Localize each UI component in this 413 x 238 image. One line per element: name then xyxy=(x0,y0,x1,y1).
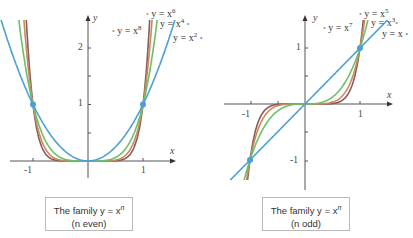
legend-x1: y = x • xyxy=(382,29,408,39)
left-x-arrow-icon xyxy=(170,159,176,164)
left-y-arrow-icon xyxy=(86,15,91,21)
left-ytick-1: 1 xyxy=(78,99,83,109)
caption-even: The family y = xn (n even) xyxy=(45,197,133,231)
left-ytick-2: 2 xyxy=(78,43,83,53)
right-y-arrow-icon xyxy=(303,15,308,21)
right-x-arrow-icon xyxy=(387,102,393,107)
left-x-axis-label: x xyxy=(170,146,174,156)
left-y-axis-label: y xyxy=(93,13,97,23)
right-xtick-pos1: 1 xyxy=(358,110,363,120)
left-xtick-pos1: 1 xyxy=(141,166,146,176)
legend-x4: y = x4 • xyxy=(160,18,189,29)
legend-x7: • y = x7 xyxy=(323,22,352,33)
left-xtick-neg1: -1 xyxy=(24,166,32,176)
left-point-neg1 xyxy=(30,102,36,108)
right-point-pos1 xyxy=(357,45,363,51)
caption-odd: The family y = xn (n odd) xyxy=(262,197,350,231)
right-ytick-neg1: -1 xyxy=(290,156,298,166)
right-point-neg1 xyxy=(247,157,253,163)
right-ytick-1: 1 xyxy=(296,43,301,53)
right-x-axis-label: x xyxy=(387,90,391,100)
legend-x3: y = x3• xyxy=(371,17,398,28)
right-xtick-neg1: -1 xyxy=(242,110,250,120)
right-y-axis-label: y xyxy=(313,13,317,23)
legend-x2: y = x2 • xyxy=(173,32,202,43)
left-point-pos1 xyxy=(140,102,146,108)
legend-x8: • y = x8 xyxy=(112,25,141,36)
